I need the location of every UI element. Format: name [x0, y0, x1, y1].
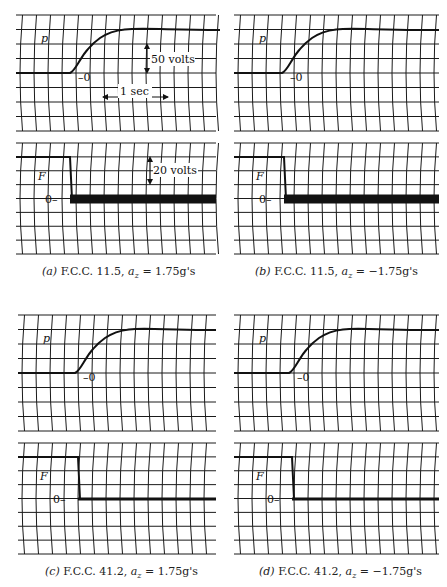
force-noise-band [284, 195, 439, 204]
force-noise-band [78, 498, 216, 501]
trace-label-F: F [255, 170, 264, 183]
force-trace [18, 457, 80, 499]
caption-b: (b) F.C.C. 11.5, az = −1.75g's [255, 265, 418, 280]
zero-label-F: 0– [45, 193, 58, 206]
force-noise-band [70, 195, 216, 204]
trace-label-F: F [255, 470, 264, 483]
caption-d: (d) F.C.C. 41.2, az = −1.75g's [259, 565, 422, 580]
oscillogram-c: p–0F0– [0, 300, 224, 560]
zero-label-p: –0 [83, 371, 96, 384]
trace-label-F: F [37, 170, 46, 183]
panel-b: p–0F0– (b) F.C.C. 11.5, az = −1.75g's [224, 0, 447, 290]
trace-label-p: p [41, 32, 48, 45]
zero-label-p: –0 [297, 371, 310, 384]
panel-d: p–0F0– (d) F.C.C. 41.2, az = −1.75g's [224, 300, 447, 587]
caption-a: (a) F.C.C. 11.5, az = 1.75g's [42, 265, 195, 280]
voltage-scale-bottom: 20 volts [153, 164, 197, 177]
trace-label-p: p [259, 332, 266, 345]
zero-label-F: 0– [267, 493, 280, 506]
trace-label-p: p [43, 332, 50, 345]
zero-label-p: –0 [78, 71, 91, 84]
force-trace [234, 457, 294, 499]
trace-label-p: p [259, 32, 266, 45]
time-scale: 1 sec [120, 85, 149, 98]
trace-label-F: F [39, 470, 48, 483]
zero-label-p: –0 [290, 71, 303, 84]
caption-c: (c) F.C.C. 41.2, az = 1.75g's [45, 565, 198, 580]
force-noise-band [292, 498, 439, 501]
panel-a: p–0F0–50 volts1 sec20 volts (a) F.C.C. 1… [0, 0, 224, 290]
zero-label-F: 0– [259, 193, 272, 206]
oscillogram-a: p–0F0–50 volts1 sec20 volts [0, 0, 224, 260]
voltage-scale-top: 50 volts [151, 53, 195, 66]
oscillogram-d: p–0F0– [224, 300, 447, 560]
zero-label-F: 0– [53, 493, 66, 506]
oscillogram-b: p–0F0– [224, 0, 447, 260]
panel-c: p–0F0– (c) F.C.C. 41.2, az = 1.75g's [0, 300, 224, 587]
